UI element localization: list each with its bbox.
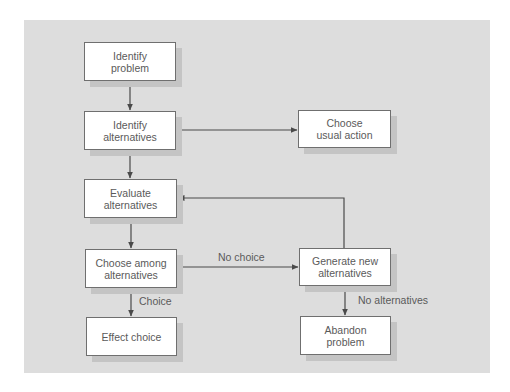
node-label: Choose among alternatives <box>95 257 166 281</box>
node-choose-among-alternatives: Choose among alternatives <box>85 249 177 288</box>
node-choose-usual-action: Choose usual action <box>298 110 391 148</box>
node-abandon-problem: Abandon problem <box>300 316 391 355</box>
node-label: Effect choice <box>102 331 162 343</box>
node-identify-alternatives: Identify alternatives <box>84 111 176 150</box>
node-label: Generate new alternatives <box>312 255 378 279</box>
node-label: Evaluate alternatives <box>104 187 158 211</box>
edge-label-no-choice: No choice <box>218 251 265 263</box>
node-label: Abandon problem <box>324 324 366 348</box>
node-label: Choose usual action <box>316 117 372 141</box>
node-identify-problem: Identify problem <box>84 42 176 81</box>
node-evaluate-alternatives: Evaluate alternatives <box>84 179 177 218</box>
node-generate-new-alternatives: Generate new alternatives <box>299 248 391 286</box>
node-label: Identify alternatives <box>103 119 157 143</box>
node-label: Identify problem <box>111 50 149 74</box>
edge-label-choice: Choice <box>139 295 172 307</box>
node-effect-choice: Effect choice <box>86 317 177 356</box>
edge-label-no-alternatives: No alternatives <box>358 294 428 306</box>
